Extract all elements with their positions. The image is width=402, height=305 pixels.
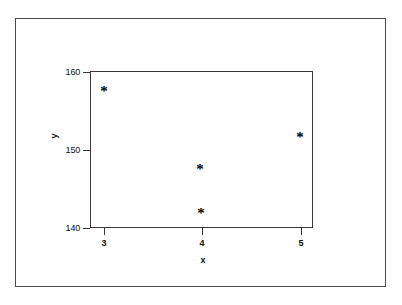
x-tick-label-5: 5 bbox=[298, 238, 303, 248]
scatter-plot-figure: 160 150 140 3 4 5 x y * * * * bbox=[0, 0, 402, 305]
y-tick-label-140: 140 bbox=[60, 223, 80, 233]
y-tick-mark-150 bbox=[83, 150, 90, 151]
y-tick-mark-140 bbox=[83, 228, 90, 229]
y-axis-label: y bbox=[49, 133, 59, 138]
y-tick-mark-160 bbox=[83, 72, 90, 73]
data-point-marker: * bbox=[296, 130, 304, 145]
data-point-marker: * bbox=[196, 162, 204, 177]
x-axis-label: x bbox=[200, 255, 205, 265]
x-tick-mark-5 bbox=[301, 228, 302, 235]
x-tick-label-4: 4 bbox=[199, 238, 204, 248]
x-tick-mark-4 bbox=[202, 228, 203, 235]
data-point-marker: * bbox=[197, 206, 205, 221]
x-tick-label-3: 3 bbox=[101, 238, 106, 248]
y-tick-label-150: 150 bbox=[60, 145, 80, 155]
x-tick-mark-3 bbox=[104, 228, 105, 235]
data-point-marker: * bbox=[100, 84, 108, 99]
y-tick-label-160: 160 bbox=[60, 67, 80, 77]
